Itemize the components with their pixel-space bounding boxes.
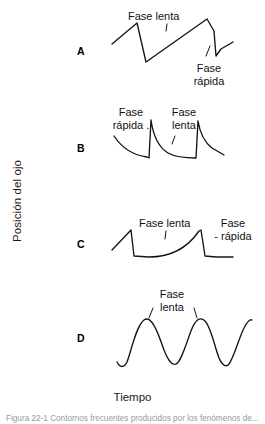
trace-a-path [112,19,233,62]
trace-d [117,308,252,367]
panel-label-b: B [77,143,85,154]
annotation-a-fast-line1: Fase [185,62,233,75]
leader-a-slow [166,24,167,31]
panel-label-d: D [77,333,85,344]
annotation-b-slow-line1: Fase [163,106,205,119]
annotation-b-fast-line1: Fase [108,106,154,119]
annotation-c-fast-line1: Fase [210,217,256,230]
leader-c-slow [165,231,166,239]
annotation-b-slow-phase: Fase lenta [163,106,205,131]
leader-a-fast [206,46,210,56]
nystagmus-waveform-figure: Posición del ojo A B C D Fase lenta Fase… [0,0,265,424]
annotation-d-slow-line1: Fase [150,288,194,301]
annotation-d-slow-line2: lenta [150,301,194,314]
annotation-c-fast-phase: Fase - rápida [210,217,256,242]
x-axis-label: Tiempo [0,391,265,403]
annotation-b-slow-line2: lenta [163,119,205,132]
panel-label-a: A [77,46,85,57]
annotation-c-slow-phase: Fase lenta [139,217,190,230]
annotation-a-fast-phase: Fase rápida [185,62,233,87]
panel-label-c: C [77,239,85,250]
annotation-a-slow-phase: Fase lenta [128,10,179,23]
annotation-a-fast-line2: rápida [185,75,233,88]
trace-a [112,19,233,62]
leader-b-slow [172,136,175,144]
leader-d-slow-right [194,308,197,318]
annotation-d-slow-phase: Fase lenta [150,288,194,313]
annotation-c-fast-line2: - rápida [210,230,256,243]
y-axis-label: Posición del ojo [11,136,23,266]
annotation-b-fast-phase: Fase rápida . [108,106,154,131]
trace-d-path [117,319,252,367]
annotation-b-fast-line2: rápida . [108,119,154,132]
figure-caption: Figura 22-1 Contornos frecuentes produci… [6,414,259,424]
